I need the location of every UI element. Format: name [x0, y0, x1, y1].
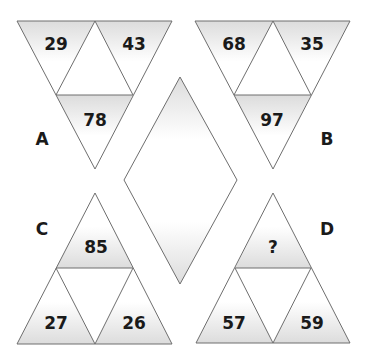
- triangle-b-left-cell: [195, 21, 273, 95]
- triangle-d-right-value: 59: [300, 313, 324, 333]
- triangle-a-left-cell: [17, 21, 95, 95]
- triangle-a-bottom-cell: [56, 95, 133, 169]
- triangle-c-left-value: 27: [44, 313, 68, 333]
- triangle-d-missing-value: ?: [268, 237, 278, 257]
- center-diamond: [124, 77, 237, 284]
- triangle-a-right-cell: [95, 21, 172, 95]
- triangle-a-label: A: [35, 129, 49, 149]
- triangle-c-right-value: 26: [122, 313, 146, 333]
- triangle-b-bottom-value: 97: [260, 110, 284, 130]
- triangle-c-label: C: [36, 219, 48, 239]
- triangle-b-label: B: [321, 129, 334, 149]
- triangle-d: ? 57 59 D: [196, 193, 350, 343]
- triangle-d-label: D: [320, 219, 334, 239]
- triangle-b-bottom-cell: [234, 95, 311, 169]
- triangle-a-bottom-value: 78: [83, 110, 107, 130]
- triangle-b-right-cell: [273, 21, 350, 95]
- triangle-d-left-value: 57: [222, 313, 246, 333]
- triangle-c-top-value: 85: [84, 237, 108, 257]
- triangle-b-left-value: 68: [222, 34, 246, 54]
- triangle-a-right-value: 43: [122, 34, 146, 54]
- puzzle-figure: 29 43 78 A 68 35 97 B 85 27 26 C: [0, 0, 371, 361]
- triangle-a-left-value: 29: [44, 34, 68, 54]
- triangle-b-right-value: 35: [300, 34, 324, 54]
